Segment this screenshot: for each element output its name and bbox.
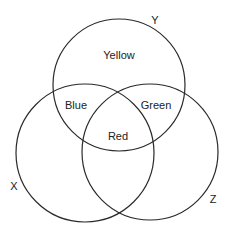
venn-diagram: Y X Z Yellow Blue Green Red (0, 0, 230, 234)
region-label-yellow: Yellow (103, 49, 134, 61)
set-label-y: Y (151, 14, 159, 26)
set-label-z: Z (210, 193, 217, 205)
region-label-green: Green (141, 99, 172, 111)
region-label-red: Red (108, 130, 128, 142)
set-label-x: X (10, 180, 18, 192)
region-label-blue: Blue (65, 99, 87, 111)
